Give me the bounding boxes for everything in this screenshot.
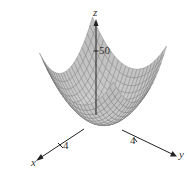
x-tick-label-4: 4 (63, 140, 69, 151)
z-tick-label-50: 50 (99, 45, 110, 56)
y-tick-label-4: 4 (130, 135, 136, 146)
surface-plot (0, 0, 190, 184)
z-axis-label: z (93, 7, 97, 18)
y-axis-label: y (179, 149, 184, 160)
x-axis-label: x (31, 157, 36, 168)
x-axis (36, 129, 84, 161)
paraboloid-surface (40, 17, 167, 126)
